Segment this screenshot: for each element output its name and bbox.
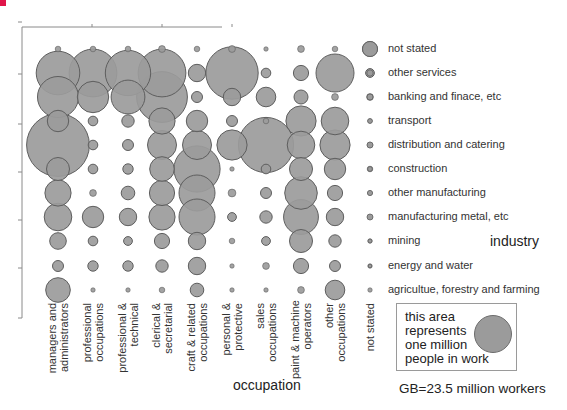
bubble bbox=[261, 164, 271, 174]
bubble bbox=[123, 164, 133, 174]
bubble bbox=[122, 115, 134, 127]
bubble bbox=[188, 257, 205, 274]
bubble bbox=[194, 46, 200, 52]
occupation-label: clerical & secretarial bbox=[150, 303, 174, 379]
industry-marker-icon bbox=[363, 42, 378, 57]
bubble bbox=[156, 260, 168, 272]
bubble bbox=[217, 130, 247, 160]
bubble bbox=[229, 238, 235, 244]
bubble bbox=[149, 180, 174, 205]
bubble bbox=[227, 116, 238, 127]
bubble bbox=[298, 287, 305, 294]
bubble bbox=[44, 203, 72, 231]
bubble bbox=[188, 232, 205, 249]
bubble bbox=[88, 236, 98, 246]
bubble bbox=[159, 287, 165, 293]
bubble bbox=[262, 237, 271, 246]
occupation-label: professional occupations bbox=[81, 303, 105, 379]
occupation-label: personal & protective bbox=[220, 303, 244, 379]
industry-marker-icon bbox=[368, 119, 373, 124]
bubble bbox=[150, 157, 175, 182]
bubble bbox=[149, 204, 175, 230]
industry-label: other manufacturing bbox=[388, 186, 486, 199]
bubble bbox=[111, 80, 145, 114]
bubble bbox=[316, 54, 354, 92]
bubble bbox=[230, 167, 234, 171]
bubble bbox=[261, 68, 271, 78]
bubble bbox=[149, 108, 175, 134]
bubble bbox=[179, 199, 215, 235]
bubble bbox=[229, 46, 236, 53]
bubble bbox=[285, 177, 318, 210]
bubble bbox=[90, 46, 96, 52]
bubble bbox=[321, 107, 349, 135]
occupation-axis-title: occupation bbox=[233, 377, 301, 393]
bubble bbox=[293, 65, 308, 80]
bubble bbox=[290, 230, 313, 253]
bubble bbox=[293, 258, 308, 273]
occupation-label: professional & technical bbox=[116, 303, 140, 379]
industry-label: banking and finace, etc bbox=[388, 90, 501, 103]
bubble bbox=[77, 81, 108, 112]
bubble bbox=[88, 261, 98, 271]
bubble bbox=[125, 46, 131, 52]
bubble bbox=[53, 261, 64, 272]
occupation-label: paint & machine operators bbox=[289, 303, 313, 379]
industry-marker-icon bbox=[367, 214, 373, 220]
occupation-label: craft & related occupations bbox=[185, 303, 209, 379]
bubble bbox=[261, 188, 272, 199]
bubble bbox=[90, 190, 97, 197]
bubble bbox=[123, 261, 133, 271]
bubble bbox=[50, 233, 67, 250]
size-legend-circle bbox=[474, 315, 512, 353]
occupation-label: not stated bbox=[364, 303, 376, 379]
bubble bbox=[264, 288, 268, 292]
bubble bbox=[190, 283, 204, 297]
industry-marker-icon bbox=[367, 142, 373, 148]
bubble bbox=[230, 288, 234, 292]
bubble bbox=[230, 264, 234, 268]
bubble bbox=[154, 233, 169, 248]
bubble bbox=[326, 208, 343, 225]
industry-label: not stated bbox=[388, 42, 436, 55]
bubbles bbox=[27, 41, 378, 302]
industry-marker-icon bbox=[367, 94, 373, 100]
bubble bbox=[264, 47, 268, 51]
size-legend-box: this area represents one million people … bbox=[396, 303, 517, 371]
bubble bbox=[121, 186, 135, 200]
bubble bbox=[228, 213, 237, 222]
bubble bbox=[82, 206, 103, 227]
bubble bbox=[223, 88, 240, 105]
bubble bbox=[123, 140, 134, 151]
industry-label: agricultue, forestry and farming bbox=[388, 283, 540, 296]
bubble bbox=[228, 189, 236, 197]
bubble bbox=[124, 237, 133, 246]
bubble bbox=[183, 131, 212, 160]
industry-marker-icon bbox=[368, 264, 372, 268]
industry-marker-icon bbox=[367, 70, 373, 76]
bubble bbox=[188, 64, 205, 81]
industry-marker-icon bbox=[367, 190, 372, 195]
bubble bbox=[186, 110, 207, 131]
bubble bbox=[192, 92, 203, 103]
industry-label: energy and water bbox=[388, 259, 473, 272]
bubble bbox=[260, 211, 272, 223]
bubble bbox=[368, 288, 372, 292]
bubble bbox=[287, 131, 315, 159]
occupation-label: sales occupations bbox=[254, 303, 278, 379]
bubble bbox=[290, 158, 313, 181]
bubble bbox=[126, 288, 130, 292]
bubble bbox=[47, 158, 70, 181]
bubble bbox=[256, 87, 276, 107]
industry-label: other services bbox=[388, 66, 456, 79]
bubble bbox=[55, 46, 61, 52]
industry-marker-icon bbox=[368, 167, 373, 172]
bubble bbox=[324, 158, 345, 179]
industry-label: mining bbox=[388, 234, 420, 247]
industry-label: manufacturing metal, etc bbox=[388, 210, 508, 223]
bubble bbox=[263, 263, 270, 270]
bubble bbox=[298, 46, 305, 53]
bubble bbox=[332, 46, 338, 52]
bubble bbox=[119, 208, 136, 225]
bubble bbox=[332, 94, 339, 101]
